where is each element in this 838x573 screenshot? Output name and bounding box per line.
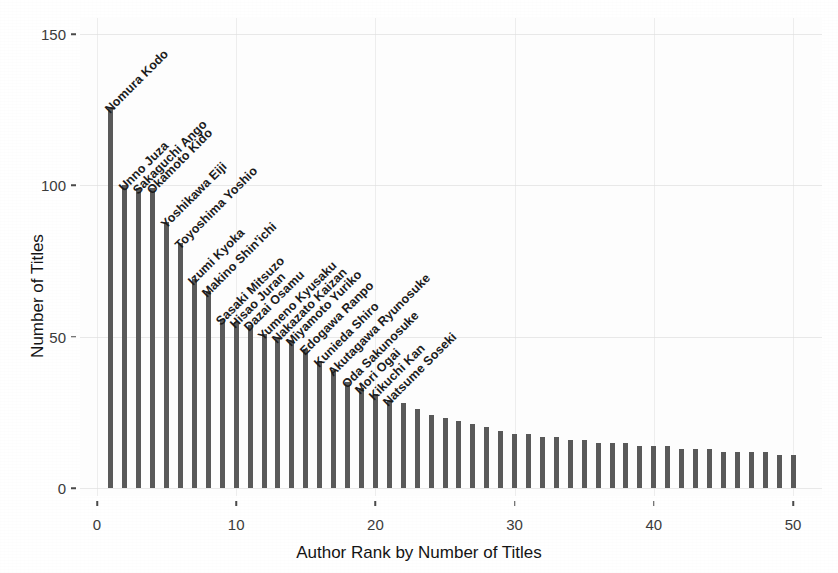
- x-tick-mark: [375, 501, 377, 506]
- bar: [275, 337, 280, 488]
- bar: [373, 394, 378, 488]
- bar: [192, 279, 197, 488]
- gridline-vertical: [793, 18, 794, 496]
- bar: [596, 443, 601, 488]
- bar: [749, 452, 754, 488]
- y-tick-mark: [71, 185, 76, 187]
- bar: [303, 349, 308, 488]
- bar: [429, 415, 434, 488]
- y-axis-title: Number of Titles: [28, 196, 48, 396]
- bar: [470, 424, 475, 488]
- x-tick-label: 50: [785, 516, 802, 533]
- bar: [387, 400, 392, 488]
- bar: [484, 427, 489, 488]
- gridline-horizontal: [80, 488, 822, 489]
- bar: [540, 437, 545, 488]
- bar: [568, 440, 573, 488]
- bar: [456, 421, 461, 488]
- bar: [122, 185, 127, 488]
- gridline-vertical: [515, 18, 516, 496]
- bar: [735, 452, 740, 488]
- bar: [359, 388, 364, 488]
- bar: [791, 455, 796, 488]
- bar: [248, 325, 253, 488]
- bar-label: Nomura Kodo: [102, 47, 171, 116]
- x-tick-label: 30: [506, 516, 523, 533]
- x-tick-label: 10: [228, 516, 245, 533]
- bar: [651, 446, 656, 488]
- x-tick-mark: [235, 501, 237, 506]
- bar: [623, 443, 628, 488]
- bar: [637, 446, 642, 488]
- y-tick-mark: [71, 487, 76, 489]
- x-tick-mark: [792, 501, 794, 506]
- bar: [498, 431, 503, 489]
- bar: [164, 222, 169, 488]
- bar: [443, 418, 448, 488]
- y-tick-label: 100: [41, 177, 66, 194]
- chart-figure: Nomura KodoUnno JuzaSakaguchi AngoOkamot…: [0, 0, 838, 573]
- bar: [178, 243, 183, 488]
- y-tick-label: 0: [58, 480, 66, 497]
- y-tick-label: 50: [49, 328, 66, 345]
- bar: [721, 452, 726, 488]
- plot-panel: Nomura KodoUnno JuzaSakaguchi AngoOkamot…: [80, 18, 822, 496]
- bar: [150, 188, 155, 488]
- bar: [707, 449, 712, 488]
- bar: [415, 409, 420, 488]
- x-axis-title: Author Rank by Number of Titles: [0, 543, 838, 563]
- bar: [610, 443, 615, 488]
- bar: [665, 446, 670, 488]
- bar: [401, 403, 406, 488]
- bar: [526, 434, 531, 488]
- bar: [262, 334, 267, 488]
- bar: [331, 370, 336, 488]
- x-tick-label: 40: [645, 516, 662, 533]
- x-tick-mark: [514, 501, 516, 506]
- gridline-horizontal: [80, 34, 822, 35]
- bar: [582, 440, 587, 488]
- bar: [777, 455, 782, 488]
- bar: [234, 322, 239, 488]
- bar: [136, 188, 141, 488]
- x-tick-mark: [653, 501, 655, 506]
- y-tick-label: 150: [41, 26, 66, 43]
- bar: [693, 449, 698, 488]
- bar: [317, 361, 322, 488]
- x-tick-label: 0: [93, 516, 101, 533]
- bar: [289, 340, 294, 488]
- bar: [206, 291, 211, 488]
- gridline-vertical: [97, 18, 98, 496]
- bar: [763, 452, 768, 488]
- y-tick-mark: [71, 33, 76, 35]
- bar: [220, 319, 225, 488]
- bar: [108, 107, 113, 488]
- gridline-vertical: [654, 18, 655, 496]
- x-tick-mark: [96, 501, 98, 506]
- bar: [512, 434, 517, 488]
- bar: [554, 437, 559, 488]
- bar: [679, 449, 684, 488]
- y-tick-mark: [71, 336, 76, 338]
- x-tick-label: 20: [367, 516, 384, 533]
- bar: [345, 382, 350, 488]
